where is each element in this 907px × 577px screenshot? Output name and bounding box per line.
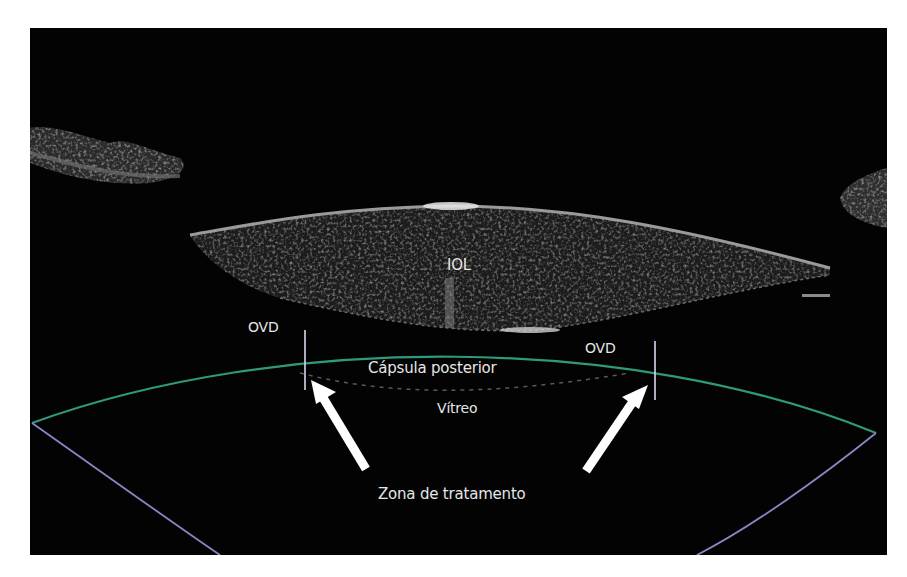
label-ovd-right: OVD — [585, 340, 616, 356]
label-zona-tratamento: Zona de tratamento — [378, 485, 526, 503]
label-vitreo: Vítreo — [437, 400, 477, 416]
scan-graphics — [30, 28, 887, 555]
iris-left — [30, 118, 190, 188]
arrow-right-icon — [586, 385, 648, 471]
oct-scan-image: IOL OVD OVD Cápsula posterior Vítreo Zon… — [30, 28, 887, 555]
arrow-left-icon — [311, 380, 366, 469]
treatment-zone-right-boundary — [697, 433, 876, 555]
label-capsula-posterior: Cápsula posterior — [368, 359, 497, 377]
iol-lens — [180, 198, 840, 338]
label-ovd-left: OVD — [248, 319, 279, 335]
label-iol: IOL — [447, 256, 471, 274]
iris-right — [830, 163, 887, 233]
treatment-zone-left-boundary — [32, 423, 220, 555]
